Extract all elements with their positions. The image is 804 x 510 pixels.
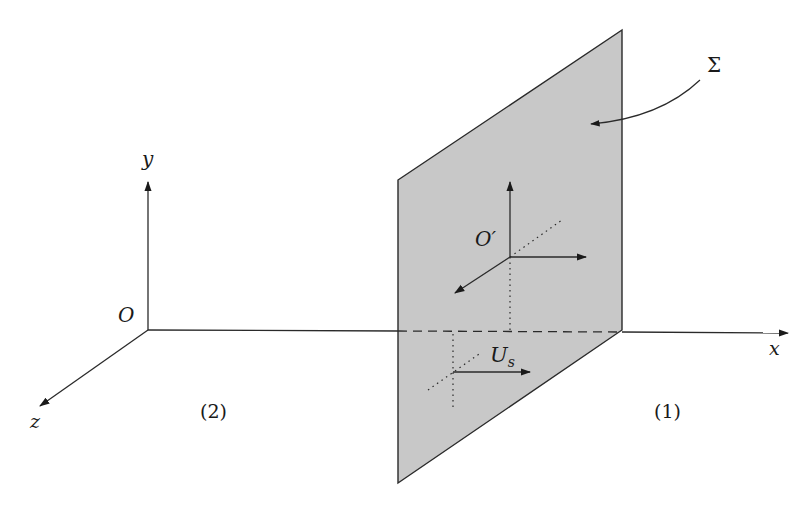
moving-origin-label: O′ <box>475 227 496 251</box>
diagram-canvas: y O z x O′ Us Σ (2) (1) <box>0 0 804 510</box>
x-axis-left <box>148 330 398 331</box>
velocity-label-subscript: s <box>508 354 515 370</box>
region-1-label: (1) <box>654 400 681 422</box>
x-axis-label: x <box>769 337 780 359</box>
x-axis-right <box>622 332 788 333</box>
origin-label: O <box>118 303 134 327</box>
plane-label: Σ <box>707 53 721 77</box>
z-axis-label: z <box>29 410 41 432</box>
z-axis <box>40 330 148 406</box>
region-2-label: (2) <box>200 400 227 422</box>
velocity-label-main: U <box>490 343 509 367</box>
y-axis-label: y <box>141 147 154 171</box>
